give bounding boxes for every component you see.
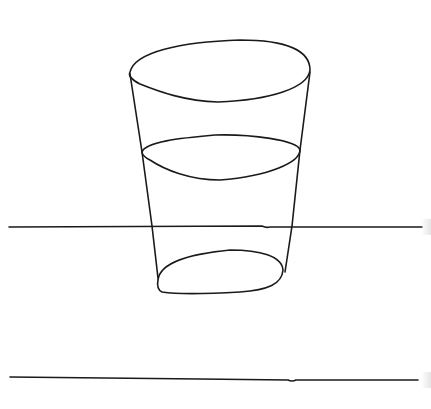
- scan-edge-shadow-upper: [421, 219, 431, 235]
- glass-drawing: [0, 0, 431, 409]
- water-surface: [142, 135, 300, 180]
- glass-left-side: [130, 74, 158, 278]
- table-line-lower: [10, 377, 418, 381]
- scan-edge-shadow-lower: [421, 372, 431, 388]
- glass-base: [158, 250, 283, 294]
- glass-right-side: [285, 72, 310, 272]
- table-line-upper: [9, 226, 422, 227]
- glass-rim: [129, 40, 310, 102]
